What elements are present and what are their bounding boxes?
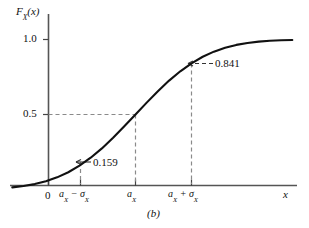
x-tick-plus-a-sub: X: [173, 196, 177, 203]
x-tick-minus-op: − σ: [68, 188, 85, 199]
y-axis-label: FX(x): [16, 6, 40, 20]
annotation-0.841: 0.841: [215, 58, 240, 69]
figure-cdf-gaussian: FX(x) 1.0 0.5 0 aX − σX aX aX + σX x 0.1…: [0, 0, 309, 228]
x-tick-label-0: 0: [45, 190, 51, 201]
y-tick-label-1.0: 1.0: [23, 33, 37, 44]
y-axis-label-f: F: [16, 5, 23, 17]
figure-caption: (b): [147, 208, 160, 219]
x-tick-label-a-minus-sigma: aX − σX: [59, 189, 89, 202]
annotation-0.159: 0.159: [93, 157, 118, 168]
x-tick-plus-op: + σ: [177, 188, 194, 199]
y-axis-label-arg: (x): [27, 5, 39, 17]
x-tick-minus-a-sub: X: [64, 196, 68, 203]
y-tick-label-0.5: 0.5: [23, 108, 37, 119]
x-tick-minus-sigma-sub: X: [85, 196, 89, 203]
y-axis-label-sub: X: [23, 13, 28, 22]
cdf-curve: [12, 40, 292, 187]
x-axis-label: x: [283, 189, 288, 200]
x-tick-label-a: aX: [127, 189, 136, 202]
x-tick-plus-sigma-sub: X: [194, 196, 198, 203]
x-tick-a-sub: X: [132, 196, 136, 203]
x-tick-label-a-plus-sigma: aX + σX: [168, 189, 198, 202]
